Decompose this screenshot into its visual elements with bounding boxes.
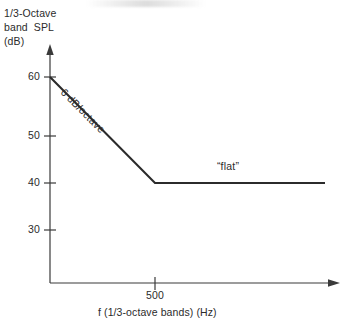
y-tick-label-40: 40 [14,176,40,188]
spectrum-curve [50,77,325,183]
chart-plot-area [0,0,347,324]
y-tick-label-30: 30 [14,223,40,235]
x-tick-label-500: 500 [135,289,175,301]
y-tick-label-60: 60 [14,70,40,82]
flat-annotation-label: “flat” [200,160,256,172]
y-axis-arrowhead-icon [46,44,53,55]
x-axis-title: f (1/3-octave bands) (Hz) [98,306,217,318]
x-axis-arrowhead-icon [328,279,340,287]
y-tick-label-50: 50 [14,129,40,141]
